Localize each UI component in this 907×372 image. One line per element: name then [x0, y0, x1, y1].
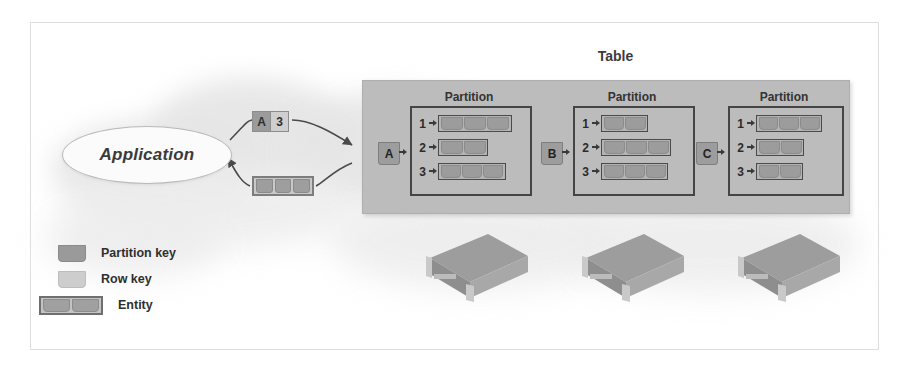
- row-key-label: 1: [416, 117, 429, 131]
- storage-node: [404, 228, 530, 304]
- row-key-label: 2: [579, 141, 592, 155]
- storage-node: [716, 228, 842, 304]
- entity-cell: [43, 299, 70, 312]
- row-key-label: 1: [579, 117, 592, 131]
- partition-row[interactable]: 2: [734, 139, 804, 156]
- entity-cell: [781, 141, 802, 154]
- partition-key-arrow-icon: [717, 148, 726, 157]
- row-arrow-icon: [429, 119, 438, 128]
- entity[interactable]: [438, 163, 506, 180]
- entity-cell: [626, 141, 647, 154]
- partition-row[interactable]: 3: [416, 163, 506, 180]
- entity-cell: [646, 165, 666, 178]
- entity-cell: [462, 165, 482, 178]
- partition-row[interactable]: 3: [734, 163, 803, 180]
- row-key-label: 3: [579, 165, 592, 179]
- entity-cell: [800, 117, 820, 130]
- entity-cell: [604, 165, 624, 178]
- partition-title-c: Partition: [728, 90, 840, 104]
- partition-row[interactable]: 2: [416, 139, 488, 156]
- entity-cell: [604, 117, 625, 130]
- row-key-swatch: [58, 271, 86, 288]
- row-key-label: 1: [734, 117, 747, 131]
- legend: Partition key Row key Entity: [58, 240, 176, 318]
- row-key-label: 3: [416, 165, 429, 179]
- partition-key-c[interactable]: C: [696, 142, 718, 165]
- entity-cell: [604, 141, 625, 154]
- entity[interactable]: [601, 139, 671, 156]
- entity-cell: [487, 117, 509, 130]
- entity[interactable]: [756, 115, 822, 132]
- entity-swatch: [39, 296, 103, 315]
- row-arrow-icon: [429, 167, 438, 176]
- entity-cell: [483, 165, 503, 178]
- row-arrow-icon: [592, 119, 601, 128]
- application-label: Application: [100, 145, 195, 165]
- entity-cell: [441, 141, 463, 154]
- partition-row[interactable]: 1: [416, 115, 512, 132]
- entity-cell: [759, 117, 779, 130]
- entity[interactable]: [438, 139, 488, 156]
- entity-cell: [441, 165, 461, 178]
- entity-cell: [464, 141, 486, 154]
- partition-row[interactable]: 3: [579, 163, 668, 180]
- entity-cell: [72, 299, 99, 312]
- row-arrow-icon: [747, 143, 756, 152]
- row-arrow-icon: [592, 143, 601, 152]
- legend-label: Entity: [118, 298, 153, 312]
- partition-row[interactable]: 1: [579, 115, 648, 132]
- entity[interactable]: [438, 115, 512, 132]
- row-arrow-icon: [592, 167, 601, 176]
- partition-key-arrow-icon: [399, 148, 408, 157]
- query-partition-key: A: [253, 112, 270, 131]
- entity[interactable]: [756, 163, 803, 180]
- row-arrow-icon: [429, 143, 438, 152]
- row-key-label: 2: [416, 141, 429, 155]
- query-key-badge[interactable]: A 3: [252, 111, 289, 132]
- partition-title-b: Partition: [573, 90, 691, 104]
- entity[interactable]: [601, 163, 668, 180]
- table-label: Table: [563, 48, 668, 64]
- legend-item: Partition key: [58, 240, 176, 266]
- row-key-label: 2: [734, 141, 747, 155]
- entity-cell: [648, 141, 669, 154]
- entity-cell: [625, 165, 645, 178]
- legend-item: Row key: [58, 266, 176, 292]
- legend-label: Partition key: [101, 246, 176, 260]
- partition-title-a: Partition: [410, 90, 528, 104]
- returned-entity[interactable]: [252, 176, 314, 196]
- entity-cell: [256, 179, 273, 193]
- azure-table-storage-diagram: Application A 3 Table PartitionA123Parti…: [0, 0, 907, 372]
- application-node[interactable]: Application: [62, 126, 232, 184]
- partition-row[interactable]: 2: [579, 139, 671, 156]
- entity[interactable]: [756, 139, 804, 156]
- query-row-key: 3: [270, 112, 288, 131]
- legend-label: Row key: [101, 272, 152, 286]
- entity-cell: [441, 117, 463, 130]
- storage-node: [560, 228, 686, 304]
- row-key-label: 3: [734, 165, 747, 179]
- row-arrow-icon: [747, 167, 756, 176]
- partition-key-a[interactable]: A: [378, 142, 400, 165]
- partition-key-arrow-icon: [562, 148, 571, 157]
- entity-cell: [759, 165, 780, 178]
- entity-cell: [780, 165, 801, 178]
- legend-item: Entity: [39, 292, 176, 318]
- entity-cell: [625, 117, 646, 130]
- partition-row[interactable]: 1: [734, 115, 822, 132]
- partition-key-b[interactable]: B: [541, 142, 563, 165]
- entity-cell: [464, 117, 486, 130]
- partition-key-swatch: [58, 245, 86, 262]
- entity-cell: [779, 117, 799, 130]
- row-arrow-icon: [747, 119, 756, 128]
- entity-cell: [275, 179, 292, 193]
- entity-cell: [293, 179, 310, 193]
- entity-cell: [759, 141, 780, 154]
- entity[interactable]: [601, 115, 648, 132]
